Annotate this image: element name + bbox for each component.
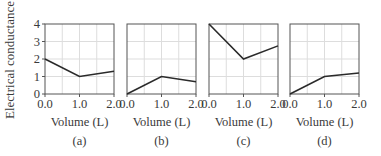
x-tick-label: 1.0 [154,97,170,111]
y-tick-label: 1 [34,70,40,84]
x-tick-label: 0.0 [201,97,217,111]
y-tick-label: 4 [34,17,41,31]
y-tick-label: 2 [34,52,40,66]
panel-c: 0.01.02.0Volume (L)(c) [201,24,286,148]
x-tick-label: 1.0 [72,97,88,111]
x-tick-label: 0.0 [282,97,298,111]
panel-label: (c) [237,134,251,148]
chart-figure: 0.01.02.001234Volume (L)(a)0.01.02.0Volu… [0,0,381,156]
panel-label: (a) [73,134,87,148]
panel-b: 0.01.02.0Volume (L)(b) [119,24,204,148]
x-axis-label: Volume (L) [51,115,109,129]
x-tick-label: 2.0 [351,97,367,111]
x-tick-label: 1.0 [317,97,333,111]
panel-a: 0.01.02.001234Volume (L)(a) [34,17,122,148]
y-tick-label: 0 [34,87,40,101]
y-tick-label: 3 [34,35,40,49]
x-tick-label: 1.0 [236,97,252,111]
panel-label: (b) [154,134,169,148]
x-axis-label: Volume (L) [133,115,191,129]
x-axis-label: Volume (L) [296,115,354,129]
x-axis-label: Volume (L) [215,115,273,129]
panel-d: 0.01.02.0Volume (L)(d) [282,24,367,148]
x-tick-label: 0.0 [119,97,135,111]
panel-label: (d) [317,134,332,148]
